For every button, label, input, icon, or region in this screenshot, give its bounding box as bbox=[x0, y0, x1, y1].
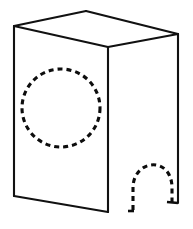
box-drawing-svg bbox=[0, 0, 193, 229]
technical-drawing-canvas bbox=[0, 0, 193, 229]
right-side-face bbox=[108, 34, 178, 212]
front-face bbox=[14, 26, 108, 212]
arch-base-right-tick bbox=[167, 202, 178, 203]
